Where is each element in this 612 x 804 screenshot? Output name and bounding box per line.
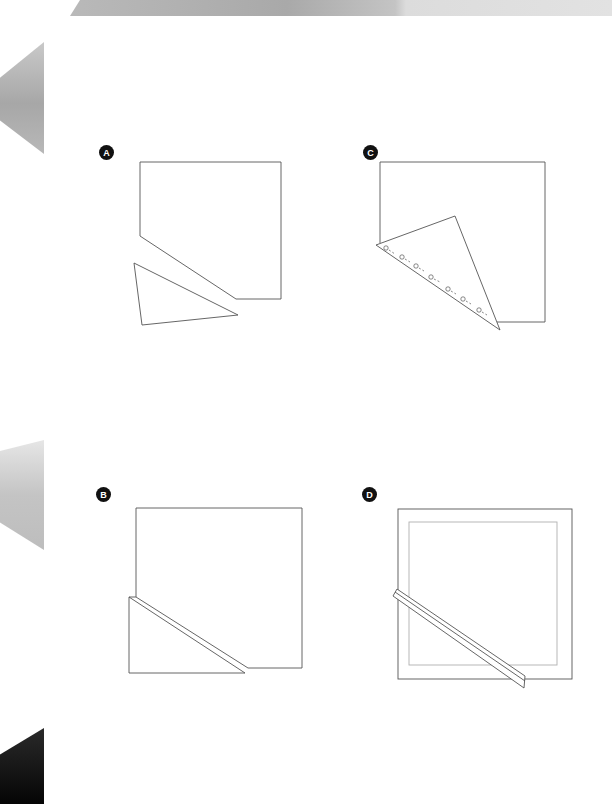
panel-a-cut-square	[140, 162, 281, 299]
panel-b	[129, 508, 302, 673]
panel-d-diagonal-strip	[393, 589, 525, 688]
panel-a-cut-triangle	[134, 263, 238, 325]
panel-b-cut-square	[136, 508, 302, 668]
panel-a	[134, 162, 281, 325]
diagram-canvas	[0, 0, 612, 804]
panel-b-cut-triangle	[129, 597, 245, 673]
panel-d-inner-square	[409, 522, 557, 665]
panel-c	[376, 162, 545, 330]
panel-d	[393, 509, 572, 688]
panel-c-folded-triangle	[376, 216, 500, 330]
